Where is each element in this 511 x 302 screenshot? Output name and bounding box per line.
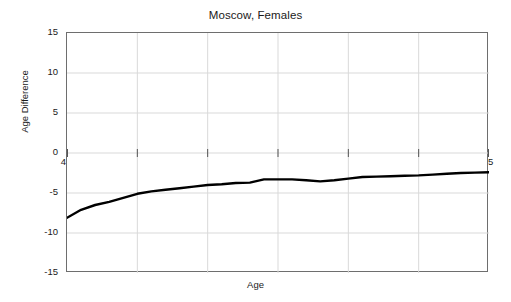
plot-area	[66, 32, 488, 272]
y-tick-label: -5	[14, 187, 58, 197]
y-tick-label: 10	[14, 67, 58, 77]
chart-title: Moscow, Females	[0, 9, 511, 21]
y-tick-label: 5	[14, 107, 58, 117]
y-axis-label: Age Difference	[19, 47, 30, 157]
chart-figure: Moscow, Females Age Difference Age 15 10…	[0, 0, 511, 302]
y-tick-label: 15	[14, 27, 58, 37]
y-tick-label: -15	[14, 267, 58, 277]
plot-svg	[67, 33, 489, 273]
y-tick-label: -10	[14, 227, 58, 237]
y-tick-label: 0	[14, 147, 58, 157]
x-axis-label: Age	[0, 279, 511, 290]
